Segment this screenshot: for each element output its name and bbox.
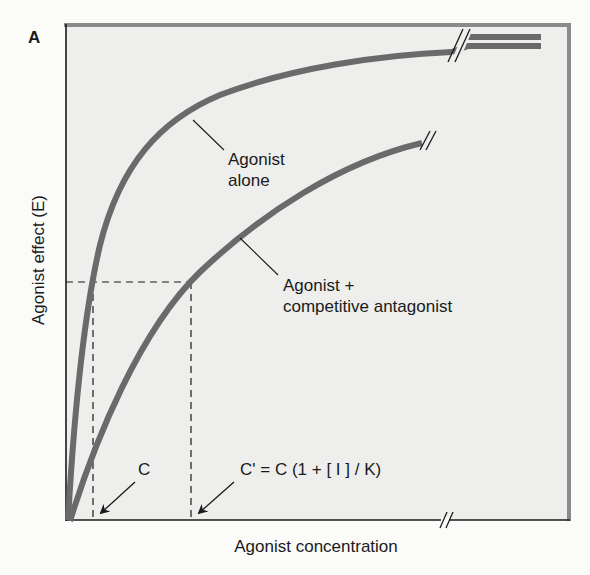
x-axis-label: Agonist concentration [234, 537, 398, 556]
panel-label: A [28, 28, 40, 47]
plot-area [66, 24, 569, 520]
c-prime-label: C' = C (1 + [ I ] / K) [240, 460, 381, 479]
agonist-alone-label-2: alone [228, 171, 270, 190]
antagonist-label-1: Agonist + [283, 276, 354, 295]
dose-response-chart: A Agonist alone Agonist + competitive an… [0, 0, 590, 575]
antagonist-label-2: competitive antagonist [283, 297, 452, 316]
y-axis-label: Agonist effect (E) [29, 195, 48, 325]
agonist-alone-label-1: Agonist [228, 150, 285, 169]
c-label: C [138, 460, 150, 479]
